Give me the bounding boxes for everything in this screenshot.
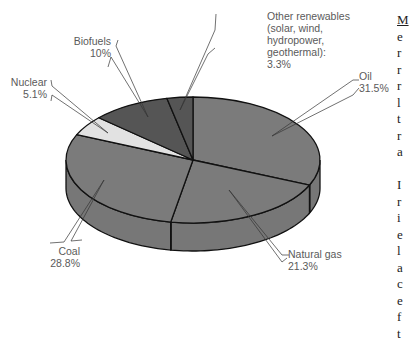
label-natural-gas: Natural gas 21.3% xyxy=(288,248,342,272)
side-text-line: M xyxy=(397,12,409,29)
side-text-line: r xyxy=(397,194,409,211)
side-text-line: f xyxy=(397,309,409,326)
side-text-line: t xyxy=(397,111,409,128)
side-text-line: a xyxy=(397,144,409,161)
side-text-line: e xyxy=(397,293,409,310)
leader-nuclear xyxy=(51,95,108,133)
side-text-line: r xyxy=(397,78,409,95)
side-text-line: r xyxy=(397,128,409,145)
side-text-line: r xyxy=(397,62,409,79)
label-biofuels: Biofuels 10% xyxy=(66,35,111,59)
side-text-line: e xyxy=(397,227,409,244)
side-text-line: a xyxy=(397,260,409,277)
side-text-line: l xyxy=(397,95,409,112)
side-body-text: Merrrltra Irielaceft xyxy=(397,12,409,342)
side-text-line: c xyxy=(397,276,409,293)
leader-other xyxy=(180,14,216,110)
label-oil: Oil 31.5% xyxy=(359,70,389,94)
side-text-line: i xyxy=(397,210,409,227)
side-text-line: l xyxy=(397,243,409,260)
label-nuclear: Nuclear 5.1% xyxy=(5,76,47,100)
side-text-line: e xyxy=(397,29,409,46)
side-text-line xyxy=(397,161,409,178)
side-text-line: r xyxy=(397,45,409,62)
side-text-line: t xyxy=(397,326,409,342)
label-other-renewables: Other renewables (solar, wind, hydropowe… xyxy=(267,10,350,70)
side-text-line: I xyxy=(397,177,409,194)
label-coal: Coal 28.8% xyxy=(40,245,80,269)
